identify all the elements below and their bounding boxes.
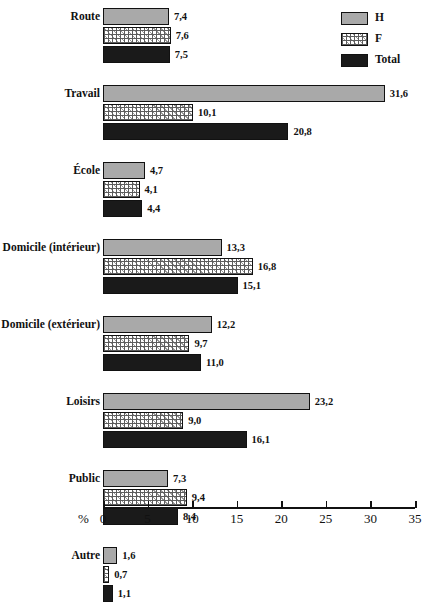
bar-group: Autre1,60,71,1 [0,547,426,602]
bar-value-label: 7,6 [176,27,189,44]
bar-row: 7,5 [103,46,426,63]
bar-row: 1,1 [103,585,426,602]
bar-row: 9,0 [103,412,426,429]
bar-value-label: 12,2 [217,316,235,333]
bar-value-label: 23,2 [315,393,333,410]
bar-value-label: 31,6 [390,85,408,102]
bar-h [103,393,310,410]
category-label: Domicile (extérieur) [1,316,100,333]
bar-f [103,566,109,583]
bar-row: 31,6 [103,85,426,102]
bar-row: 7,3 [103,470,426,487]
bar-value-label: 7,4 [174,8,187,25]
bar-h [103,316,212,333]
axis-tick-label: 30 [364,511,377,527]
axis-tick-label: 35 [409,511,422,527]
bar-value-label: 4,1 [145,181,158,198]
bar-value-label: 4,7 [150,162,163,179]
bar-total [103,431,247,448]
bar-value-label: 7,3 [173,470,186,487]
bar-h [103,470,168,487]
x-axis: % 05101520253035 [0,500,426,544]
bar-row: 7,4 [103,8,426,25]
bar-total [103,123,288,140]
bar-h [103,239,222,256]
bar-row: 4,1 [103,181,426,198]
bar-group: Domicile (extérieur)12,29,711,0 [0,316,426,371]
bar-f [103,258,253,275]
bar-value-label: 16,8 [258,258,276,275]
bar-value-label: 11,0 [206,354,224,371]
bar-f [103,27,171,44]
bar-row: 16,1 [103,431,426,448]
bar-value-label: 9,7 [194,335,207,352]
category-label: Travail [64,85,100,102]
bar-row: 4,4 [103,200,426,217]
bar-group: Domicile (intérieur)13,316,815,1 [0,239,426,294]
category-label: École [73,162,100,179]
axis-tick [103,501,105,508]
bar-f [103,181,140,198]
category-label: Route [71,8,100,25]
bar-value-label: 1,1 [118,585,131,602]
category-label: Domicile (intérieur) [3,239,100,256]
bar-total [103,354,201,371]
bar-group: Loisirs23,29,016,1 [0,393,426,448]
axis-line [103,507,415,509]
bar-group: Route7,47,67,5 [0,8,426,63]
axis-tick-label: 20 [275,511,288,527]
bar-row: 7,6 [103,27,426,44]
bar-value-label: 7,5 [175,46,188,63]
bar-value-label: 4,4 [147,200,160,217]
bar-row: 4,7 [103,162,426,179]
bar-group: École4,74,14,4 [0,162,426,217]
axis-tick-label: 0 [100,511,107,527]
bar-row: 13,3 [103,239,426,256]
category-label: Loisirs [66,393,100,410]
axis-tick [326,501,328,508]
bar-row: 16,8 [103,258,426,275]
bar-total [103,585,113,602]
axis-tick-label: 10 [186,511,199,527]
axis-tick-label: 5 [144,511,151,527]
bar-value-label: 15,1 [243,277,261,294]
bar-total [103,200,142,217]
bar-row: 23,2 [103,393,426,410]
bar-f [103,104,193,121]
bar-row: 15,1 [103,277,426,294]
bar-row: 1,6 [103,547,426,564]
bar-f [103,335,189,352]
axis-tick-label: 25 [319,511,332,527]
category-label: Autre [71,547,100,564]
bar-h [103,8,169,25]
axis-tick [370,501,372,508]
bar-total [103,277,238,294]
axis-tick [192,501,194,508]
bar-value-label: 20,8 [293,123,311,140]
bar-group: Travail31,610,120,8 [0,85,426,140]
axis-tick [415,501,417,508]
axis-tick [148,501,150,508]
bar-value-label: 13,3 [227,239,245,256]
bar-row: 0,7 [103,566,426,583]
bar-h [103,162,145,179]
axis-tick-label: 15 [230,511,243,527]
plot-area: Route7,47,67,5Travail31,610,120,8École4,… [0,0,426,500]
bar-value-label: 9,0 [188,412,201,429]
bar-value-label: 1,6 [122,547,135,564]
bar-h [103,85,385,102]
axis-unit-label: % [78,511,89,527]
bar-row: 11,0 [103,354,426,371]
bar-total [103,46,170,63]
bar-h [103,547,117,564]
axis-tick [281,501,283,508]
bar-value-label: 0,7 [114,566,127,583]
bar-value-label: 16,1 [252,431,270,448]
bar-f [103,412,183,429]
bar-row: 10,1 [103,104,426,121]
bar-row: 9,7 [103,335,426,352]
bar-row: 12,2 [103,316,426,333]
axis-tick [237,501,239,508]
category-label: Public [69,470,100,487]
